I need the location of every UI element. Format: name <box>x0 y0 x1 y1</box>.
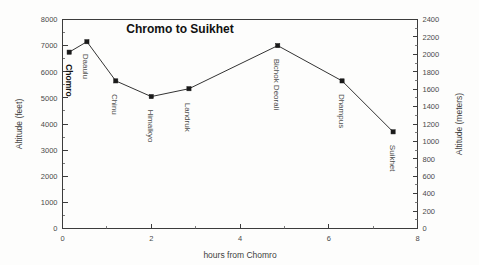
chart-title: Chromo to Suikhet <box>126 22 233 36</box>
altitude-profile-line-chart: 010002000300040005000600070008000 020040… <box>0 0 479 265</box>
data-point-marker-2 <box>114 79 118 83</box>
point-label-daaulu: Daaulu <box>81 54 90 79</box>
x-ticklabel: 4 <box>238 234 242 243</box>
y-axis-left: 010002000300040005000600070008000 <box>41 15 68 233</box>
y-ticklabel-right: 2000 <box>423 50 440 59</box>
y-ticklabel-right: 2400 <box>423 15 440 24</box>
point-labels: ChomroDaauluChinuHimalkyoLandrukBichok D… <box>64 54 397 173</box>
y-ticklabel-left: 1000 <box>41 198 58 207</box>
y-ticklabel-right: 800 <box>423 155 436 164</box>
y-ticklabel-left: 6000 <box>41 68 58 77</box>
point-label-himalkyo: Himalkyo <box>146 110 155 143</box>
y-ticklabel-left: 2000 <box>41 172 58 181</box>
point-label-chinu: Chinu <box>110 94 119 115</box>
data-point-marker-3 <box>149 94 153 98</box>
x-ticklabel: 0 <box>60 234 64 243</box>
y-ticklabel-left: 4000 <box>41 120 58 129</box>
point-label-bichok-deorali: Bichok Deorali <box>272 59 281 111</box>
data-point-marker-0 <box>67 50 71 54</box>
data-point-marker-6 <box>340 79 344 83</box>
y-ticklabel-right: 1800 <box>423 68 440 77</box>
plot-area-frame <box>63 20 418 229</box>
data-point-marker-7 <box>391 130 395 134</box>
y-ticklabel-right: 400 <box>423 189 436 198</box>
chart-figure: 010002000300040005000600070008000 020040… <box>0 0 479 265</box>
x-ticklabel: 8 <box>415 234 419 243</box>
y-ticklabel-right: 2200 <box>423 33 440 42</box>
y-axis-left-title: Altitude (feet) <box>14 99 24 150</box>
point-label-landruk: Landruk <box>183 103 192 133</box>
point-label-suikhet: Suikhet <box>388 145 397 172</box>
y-ticklabel-left: 0 <box>53 224 57 233</box>
x-ticklabel: 6 <box>327 234 331 243</box>
data-point-marker-4 <box>187 87 191 91</box>
y-ticklabel-right: 600 <box>423 172 436 181</box>
y-axis-right: 0200400600800100012001400160018002000220… <box>413 15 440 233</box>
y-ticklabel-right: 0 <box>423 224 427 233</box>
y-ticklabel-right: 200 <box>423 207 436 216</box>
y-ticklabel-right: 1200 <box>423 120 440 129</box>
data-point-marker-5 <box>276 44 280 48</box>
point-label-dhampus: Dhampus <box>337 94 346 128</box>
x-axis: 02468 <box>60 224 419 243</box>
point-label-chomro: Chomro <box>64 64 74 97</box>
y-ticklabel-left: 7000 <box>41 41 58 50</box>
y-ticklabel-left: 8000 <box>41 15 58 24</box>
y-axis-right-title: Altitude (meters) <box>454 93 464 156</box>
y-ticklabel-left: 5000 <box>41 94 58 103</box>
y-ticklabel-right: 1600 <box>423 85 440 94</box>
x-ticklabel: 2 <box>149 234 153 243</box>
x-axis-title: hours from Chomro <box>203 250 276 260</box>
y-ticklabel-right: 1000 <box>423 137 440 146</box>
y-ticklabel-right: 1400 <box>423 102 440 111</box>
data-point-marker-1 <box>85 40 89 44</box>
y-ticklabel-left: 3000 <box>41 146 58 155</box>
